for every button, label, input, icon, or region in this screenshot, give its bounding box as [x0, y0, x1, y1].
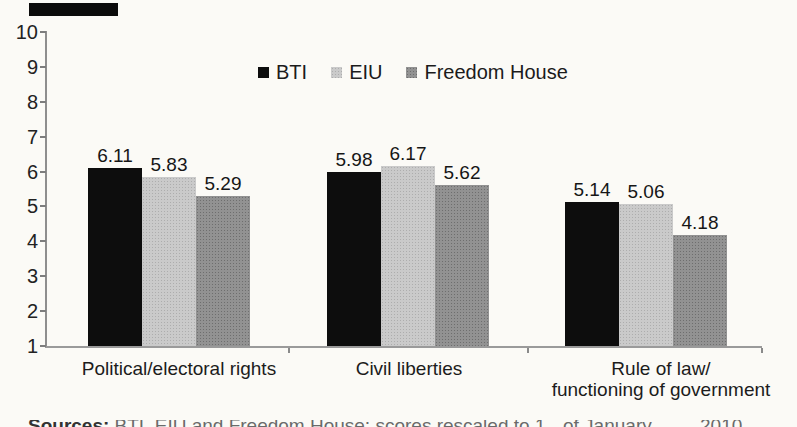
y-tick-label-4: 4: [6, 230, 38, 252]
bar-bti-group2: [327, 172, 381, 346]
x-axis-baseline: [45, 346, 762, 348]
y-axis: [45, 31, 47, 346]
bar-eiu-group3: [619, 204, 673, 346]
category-separator-tick-0: [288, 348, 290, 353]
y-tick-mark-7: [40, 136, 46, 138]
y-tick-label-9: 9: [6, 56, 38, 78]
category-label-1: Political/electoral rights: [49, 358, 309, 379]
category-label-3: Rule of law/functioning of government: [531, 358, 791, 400]
caption-fragment-2: 2010: [700, 420, 762, 427]
y-tick-mark-9: [40, 66, 46, 68]
bar-freedom-house-group2: [435, 185, 489, 346]
y-tick-mark-1: [40, 345, 46, 347]
cropped-bold-text-fragment: [29, 3, 118, 16]
bar-value-label: 4.18: [668, 212, 732, 234]
y-tick-mark-3: [40, 275, 46, 277]
y-tick-mark-10: [40, 31, 46, 33]
y-tick-mark-8: [40, 101, 46, 103]
legend: BTIEIUFreedom House: [258, 61, 568, 84]
legend-swatch-icon: [331, 67, 342, 78]
bar-eiu-group2: [381, 166, 435, 346]
category-label-2: Civil liberties: [279, 358, 539, 379]
y-tick-label-5: 5: [6, 195, 38, 217]
y-tick-mark-5: [40, 205, 46, 207]
y-tick-mark-4: [40, 240, 46, 242]
bar-eiu-group1: [142, 177, 196, 346]
bar-value-label: 5.29: [191, 173, 255, 195]
legend-item-freedom-house: Freedom House: [406, 61, 567, 84]
legend-swatch-icon: [258, 67, 269, 78]
y-tick-label-2: 2: [6, 300, 38, 322]
bar-freedom-house-group3: [673, 235, 727, 346]
y-tick-label-3: 3: [6, 265, 38, 287]
y-tick-label-10: 10: [6, 21, 38, 43]
bar-freedom-house-group1: [196, 196, 250, 346]
y-tick-label-8: 8: [6, 91, 38, 113]
category-separator-tick-2: [761, 348, 763, 353]
legend-label: Freedom House: [424, 61, 567, 84]
caption-fragment-1: of January: [563, 420, 673, 427]
bar-value-label: 5.62: [430, 162, 494, 184]
legend-swatch-icon: [406, 67, 417, 78]
category-separator-tick-1: [527, 348, 529, 353]
legend-item-eiu: EIU: [331, 61, 382, 84]
bar-bti-group1: [88, 168, 142, 346]
legend-label: BTI: [276, 61, 307, 84]
legend-item-bti: BTI: [258, 61, 307, 84]
y-tick-mark-6: [40, 171, 46, 173]
scanned-bar-chart-figure: 10987654321 6.115.835.295.986.175.625.14…: [0, 0, 797, 427]
caption-fragment-0: Sources: BTI, EIU and Freedom House; sco…: [28, 420, 550, 427]
bar-value-label: 5.06: [614, 181, 678, 203]
y-tick-label-1: 1: [6, 335, 38, 357]
legend-label: EIU: [349, 61, 382, 84]
y-tick-label-6: 6: [6, 161, 38, 183]
bar-bti-group3: [565, 202, 619, 346]
y-tick-label-7: 7: [6, 126, 38, 148]
y-tick-mark-2: [40, 310, 46, 312]
